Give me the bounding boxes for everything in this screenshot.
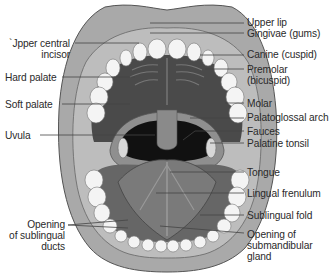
label-line: Lingual frenulum: [247, 188, 321, 199]
label-gingivae: Gingivae (gums): [247, 28, 320, 39]
label-tongue: Tongue: [247, 167, 280, 178]
label-line: Gingivae (gums): [247, 28, 320, 39]
label-line: of sublingual: [2, 230, 65, 241]
label-opening-of-sublingual-ducts: Opening of sublingual ducts: [2, 219, 65, 252]
label-lingual-frenulum: Lingual frenulum: [247, 188, 321, 199]
label-uvula: Uvula: [5, 130, 31, 141]
label-upper-lip: Upper lip: [247, 17, 287, 28]
label-line: Tongue: [247, 167, 280, 178]
label-palatine-tonsil: Palatine tonsil: [247, 138, 309, 149]
label-line: Molar: [247, 98, 272, 109]
tonsil-left: [118, 138, 128, 158]
label-line: Opening of: [247, 229, 313, 240]
label-molar: Molar: [247, 98, 272, 109]
label-line: Opening: [2, 219, 65, 230]
label-line: Sublingual fold: [247, 210, 312, 221]
label-line: Canine (cuspid): [247, 49, 317, 60]
label-line: Premolar: [247, 64, 290, 75]
label-line: Soft palate: [5, 99, 53, 110]
label-canine: Canine (cuspid): [247, 49, 317, 60]
label-line: Uvula: [5, 130, 31, 141]
label-premolar: Premolar (bicuspid): [247, 64, 290, 86]
label-line: Palatoglossal arch: [247, 112, 328, 123]
label-palatoglossal-arch: Palatoglossal arch: [247, 112, 328, 123]
label-line: Fauces: [247, 126, 280, 137]
label-sublingual-fold: Sublingual fold: [247, 210, 312, 221]
label-soft-palate: Soft palate: [5, 99, 53, 110]
uvula-shape: [157, 110, 177, 150]
label-line: incisor: [2, 49, 70, 60]
label-line: Hard palate: [5, 72, 57, 83]
label-line: Upper lip: [247, 17, 287, 28]
label-line: `Jpper central: [2, 38, 70, 49]
label-line: submandibular: [247, 240, 313, 251]
label-hard-palate: Hard palate: [5, 72, 57, 83]
label-line: (bicuspid): [247, 75, 290, 86]
label-line: ducts: [2, 241, 65, 252]
label-upper-central-incisor: `Jpper central incisor: [2, 38, 70, 60]
label-line: gland: [247, 251, 313, 262]
tonsil-right: [206, 138, 216, 158]
label-opening-of-submandibular-gland: Opening of submandibular gland: [247, 229, 313, 262]
label-line: Palatine tonsil: [247, 138, 309, 149]
label-fauces: Fauces: [247, 126, 280, 137]
